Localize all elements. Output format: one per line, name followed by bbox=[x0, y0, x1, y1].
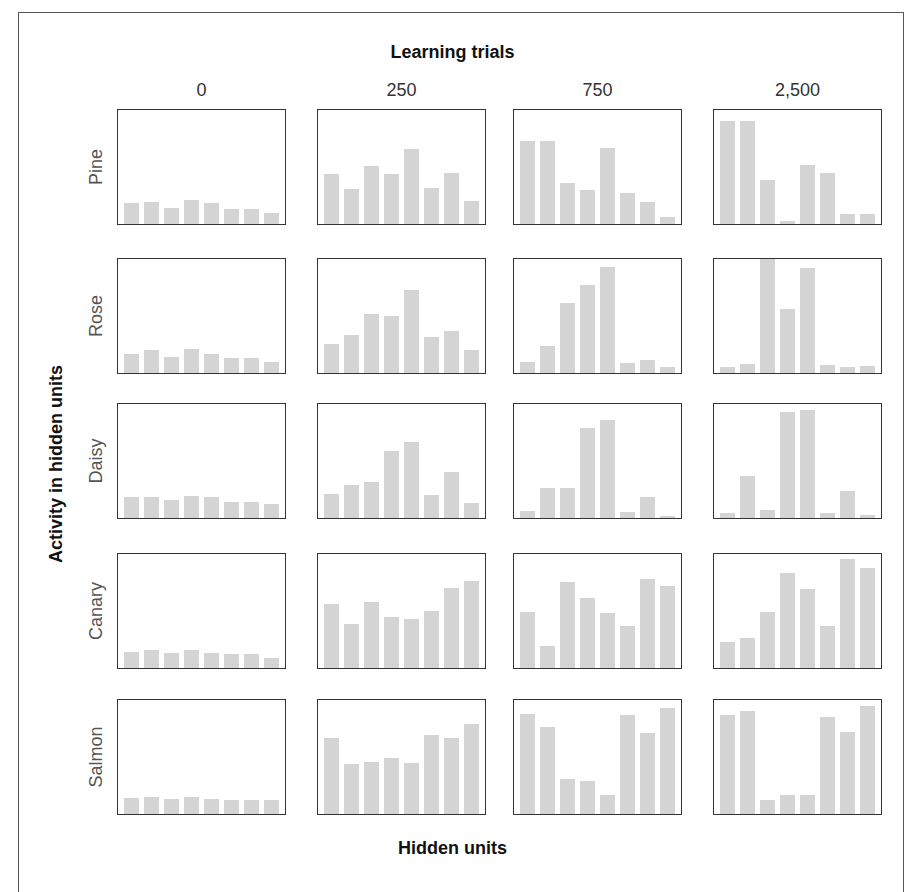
hidden-unit-bar bbox=[820, 173, 835, 224]
hidden-unit-bar bbox=[344, 485, 359, 518]
hidden-unit-bar bbox=[184, 200, 199, 224]
hidden-unit-bar bbox=[424, 495, 439, 518]
hidden-unit-bar bbox=[464, 724, 479, 814]
hidden-unit-bar bbox=[384, 758, 399, 814]
hidden-unit-bar bbox=[760, 259, 775, 373]
bar-panel bbox=[317, 109, 486, 225]
row-label: Canary bbox=[86, 553, 110, 669]
hidden-unit-bar bbox=[384, 174, 399, 224]
hidden-unit-bar bbox=[860, 568, 875, 668]
x-axis-title: Hidden units bbox=[0, 838, 905, 859]
bar-panel bbox=[117, 699, 286, 815]
hidden-unit-bar bbox=[820, 626, 835, 668]
hidden-unit-bar bbox=[464, 350, 479, 373]
hidden-unit-bar bbox=[164, 799, 179, 814]
hidden-unit-bar bbox=[444, 472, 459, 518]
hidden-unit-bar bbox=[164, 357, 179, 373]
hidden-unit-bar bbox=[520, 511, 535, 518]
top-axis-title: Learning trials bbox=[0, 42, 905, 63]
hidden-unit-bar bbox=[444, 588, 459, 668]
hidden-unit-bar bbox=[264, 362, 279, 373]
hidden-unit-bar bbox=[740, 121, 755, 224]
bar-panel bbox=[713, 699, 882, 815]
hidden-unit-bar bbox=[364, 482, 379, 518]
hidden-unit-bar bbox=[800, 795, 815, 814]
hidden-unit-bar bbox=[540, 346, 555, 373]
hidden-unit-bar bbox=[600, 420, 615, 518]
hidden-unit-bar bbox=[740, 638, 755, 668]
hidden-unit-bar bbox=[720, 367, 735, 373]
hidden-unit-bar bbox=[640, 733, 655, 814]
hidden-unit-bar bbox=[840, 559, 855, 668]
hidden-unit-bar bbox=[424, 735, 439, 814]
hidden-unit-bar bbox=[264, 800, 279, 814]
hidden-unit-bar bbox=[324, 344, 339, 373]
hidden-unit-bar bbox=[660, 708, 675, 814]
hidden-unit-bar bbox=[520, 714, 535, 814]
hidden-unit-bar bbox=[760, 612, 775, 668]
hidden-unit-bar bbox=[144, 797, 159, 814]
hidden-unit-bar bbox=[344, 189, 359, 224]
hidden-unit-bar bbox=[464, 503, 479, 518]
hidden-unit-bar bbox=[384, 617, 399, 668]
bar-panel bbox=[713, 553, 882, 669]
hidden-unit-bar bbox=[244, 358, 259, 373]
hidden-unit-bar bbox=[424, 188, 439, 224]
hidden-unit-bar bbox=[124, 497, 139, 518]
column-label: 250 bbox=[317, 80, 486, 101]
hidden-unit-bar bbox=[384, 451, 399, 518]
bar-panel bbox=[713, 258, 882, 374]
bar-panel bbox=[513, 109, 682, 225]
hidden-unit-bar bbox=[820, 717, 835, 814]
hidden-unit-bar bbox=[404, 763, 419, 814]
row-label: Pine bbox=[86, 109, 110, 225]
hidden-unit-bar bbox=[660, 217, 675, 224]
hidden-unit-bar bbox=[740, 476, 755, 518]
hidden-unit-bar bbox=[600, 795, 615, 814]
hidden-unit-bar bbox=[364, 602, 379, 668]
bar-panel bbox=[513, 258, 682, 374]
hidden-unit-bar bbox=[640, 202, 655, 224]
hidden-unit-bar bbox=[580, 190, 595, 224]
hidden-unit-bar bbox=[800, 268, 815, 373]
hidden-unit-bar bbox=[600, 148, 615, 224]
bar-panel bbox=[317, 258, 486, 374]
hidden-unit-bar bbox=[204, 203, 219, 224]
hidden-unit-bar bbox=[780, 573, 795, 668]
hidden-unit-bar bbox=[780, 412, 795, 518]
hidden-unit-bar bbox=[620, 626, 635, 668]
hidden-unit-bar bbox=[800, 589, 815, 668]
hidden-unit-bar bbox=[164, 208, 179, 224]
hidden-unit-bar bbox=[424, 337, 439, 373]
hidden-unit-bar bbox=[184, 349, 199, 373]
hidden-unit-bar bbox=[144, 350, 159, 373]
row-label: Salmon bbox=[86, 699, 110, 815]
hidden-unit-bar bbox=[424, 611, 439, 668]
hidden-unit-bar bbox=[820, 513, 835, 518]
hidden-unit-bar bbox=[660, 516, 675, 518]
hidden-unit-bar bbox=[124, 798, 139, 814]
hidden-unit-bar bbox=[720, 121, 735, 224]
hidden-unit-bar bbox=[740, 364, 755, 373]
hidden-unit-bar bbox=[344, 335, 359, 373]
hidden-unit-bar bbox=[640, 497, 655, 518]
hidden-unit-bar bbox=[560, 303, 575, 373]
hidden-unit-bar bbox=[444, 738, 459, 814]
hidden-unit-bar bbox=[840, 214, 855, 224]
hidden-unit-bar bbox=[600, 613, 615, 668]
hidden-unit-bar bbox=[720, 642, 735, 668]
hidden-unit-bar bbox=[124, 203, 139, 224]
hidden-unit-bar bbox=[464, 201, 479, 224]
hidden-unit-bar bbox=[620, 193, 635, 224]
hidden-unit-bar bbox=[224, 358, 239, 373]
bar-panel bbox=[513, 403, 682, 519]
hidden-unit-bar bbox=[840, 491, 855, 518]
hidden-unit-bar bbox=[580, 428, 595, 518]
hidden-unit-bar bbox=[580, 781, 595, 814]
hidden-unit-bar bbox=[840, 732, 855, 814]
hidden-unit-bar bbox=[800, 165, 815, 224]
hidden-unit-bar bbox=[384, 316, 399, 373]
hidden-unit-bar bbox=[780, 221, 795, 224]
hidden-unit-bar bbox=[164, 653, 179, 668]
hidden-unit-bar bbox=[720, 513, 735, 518]
